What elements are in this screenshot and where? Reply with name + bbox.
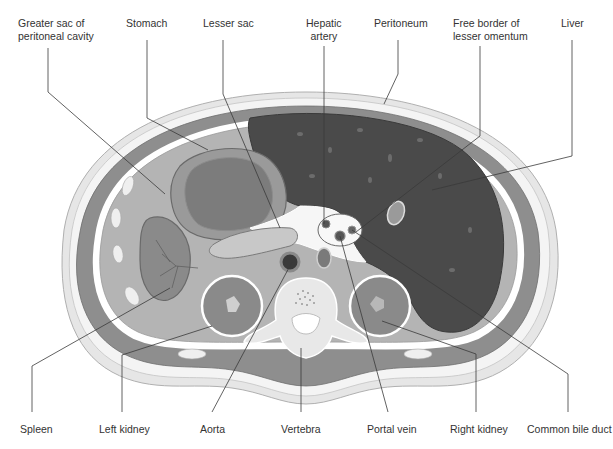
label-line: artery [306, 30, 342, 43]
label-greater-sac: Greater sac of peritoneal cavity [18, 17, 94, 43]
label-hepatic-artery: Hepatic artery [306, 17, 342, 43]
label-line: Portal vein [367, 423, 417, 436]
label-line: Lesser sac [203, 17, 254, 30]
label-line: Vertebra [281, 423, 321, 436]
label-line: Common bile duct [527, 423, 612, 436]
label-line: Greater sac of [18, 17, 94, 30]
label-line: Spleen [20, 423, 53, 436]
label-spleen: Spleen [20, 423, 53, 436]
label-line: Hepatic [306, 17, 342, 30]
label-line: Liver [561, 17, 584, 30]
label-line: Right kidney [450, 423, 508, 436]
inferior-vena-cava [317, 248, 331, 268]
label-line: Left kidney [99, 423, 150, 436]
label-line: Aorta [200, 423, 225, 436]
label-stomach: Stomach [126, 17, 167, 30]
label-aorta: Aorta [200, 423, 225, 436]
label-line: peritoneal cavity [18, 30, 94, 43]
label-line: lesser omentum [453, 30, 528, 43]
label-free-border-lesser-omentum: Free border of lesser omentum [453, 17, 528, 43]
label-right-kidney: Right kidney [450, 423, 508, 436]
label-portal-vein: Portal vein [367, 423, 417, 436]
label-lesser-sac: Lesser sac [203, 17, 254, 30]
label-line: Free border of [453, 17, 528, 30]
label-left-kidney: Left kidney [99, 423, 150, 436]
label-line: Peritoneum [374, 17, 428, 30]
label-liver: Liver [561, 17, 584, 30]
label-vertebra: Vertebra [281, 423, 321, 436]
label-common-bile-duct: Common bile duct [527, 423, 612, 436]
label-peritoneum: Peritoneum [374, 17, 428, 30]
aorta [281, 253, 299, 271]
label-line: Stomach [126, 17, 167, 30]
stomach-contents [185, 158, 273, 231]
abdominal-cross-section-diagram [0, 0, 613, 449]
hepatic-artery-vessel [322, 220, 330, 228]
